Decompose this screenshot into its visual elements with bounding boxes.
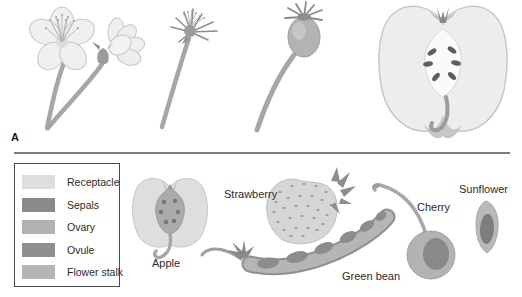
ovule-swatch [22,243,55,257]
strawberry-label: Strawberry [224,188,277,200]
flower-stalk-swatch [22,265,55,279]
legend-label: Ovary [67,221,95,233]
legend-label: Sepals [67,199,99,211]
section-divider [14,152,510,154]
legend-item-ovule: Ovule [22,239,119,262]
apple-cross-section-icon [379,7,507,139]
sunflower-seed-icon [476,201,498,253]
sunflower-label: Sunflower [459,183,508,195]
cherry-label: Cherry [417,201,450,213]
apple-diagram-icon [133,179,208,258]
legend-box: Receptacle Sepals Ovary Ovule Flower sta… [14,163,120,287]
legend-item-sepals: Sepals [22,194,119,217]
fruit-development-figure: A Receptacle Sepals Ovary Ovule Flower s… [0,0,522,297]
sepals-swatch [22,198,55,212]
receptacle-swatch [22,175,55,189]
legend-label: Flower stalk [67,266,123,278]
developing-fruit-icon [257,2,322,130]
apple-label: Apple [152,257,180,269]
legend-item-ovary: Ovary [22,216,119,239]
legend-item-receptacle: Receptacle [22,171,119,194]
apple-blossom-icon [25,7,146,128]
panel-label-a: A [11,131,19,143]
strawberry-icon [267,167,356,244]
legend-item-flower-stalk: Flower stalk [22,261,119,284]
legend-label: Ovule [67,244,94,256]
legend-label: Receptacle [67,176,120,188]
green-bean-label: Green bean [342,270,400,282]
ovary-swatch [22,220,55,234]
wilted-flower-icon [162,9,217,127]
